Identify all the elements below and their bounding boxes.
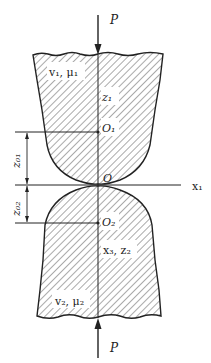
top-force-arrow-icon — [95, 15, 102, 55]
contact-diagram: P P v₁, μ₁ v₂, μ₂ z₁ O₁ O x₁ O₂ x₃, z₂ z… — [0, 0, 211, 363]
z1-axis-label: z₁ — [101, 91, 112, 104]
z01-dimension-label: z₀₁ — [10, 153, 23, 169]
body2-properties-label: v₂, μ₂ — [54, 295, 84, 308]
center-o1-label: O₁ — [102, 122, 115, 135]
force-top-label: P — [109, 13, 119, 27]
o2-point — [96, 221, 99, 224]
force-bottom-label: P — [109, 341, 119, 355]
dimension-z02 — [25, 186, 29, 222]
x1-axis-label: x₁ — [192, 180, 203, 193]
origin-o-label: O — [103, 172, 112, 185]
dimension-z01 — [25, 133, 29, 184]
body1-properties-label: v₁, μ₁ — [48, 66, 78, 79]
bottom-force-arrow-icon — [95, 318, 102, 358]
z02-dimension-label: z₀₂ — [10, 201, 23, 217]
body2-axes-label: x₃, z₂ — [103, 244, 131, 257]
center-o2-label: O₂ — [102, 216, 115, 229]
o1-point — [96, 130, 99, 133]
